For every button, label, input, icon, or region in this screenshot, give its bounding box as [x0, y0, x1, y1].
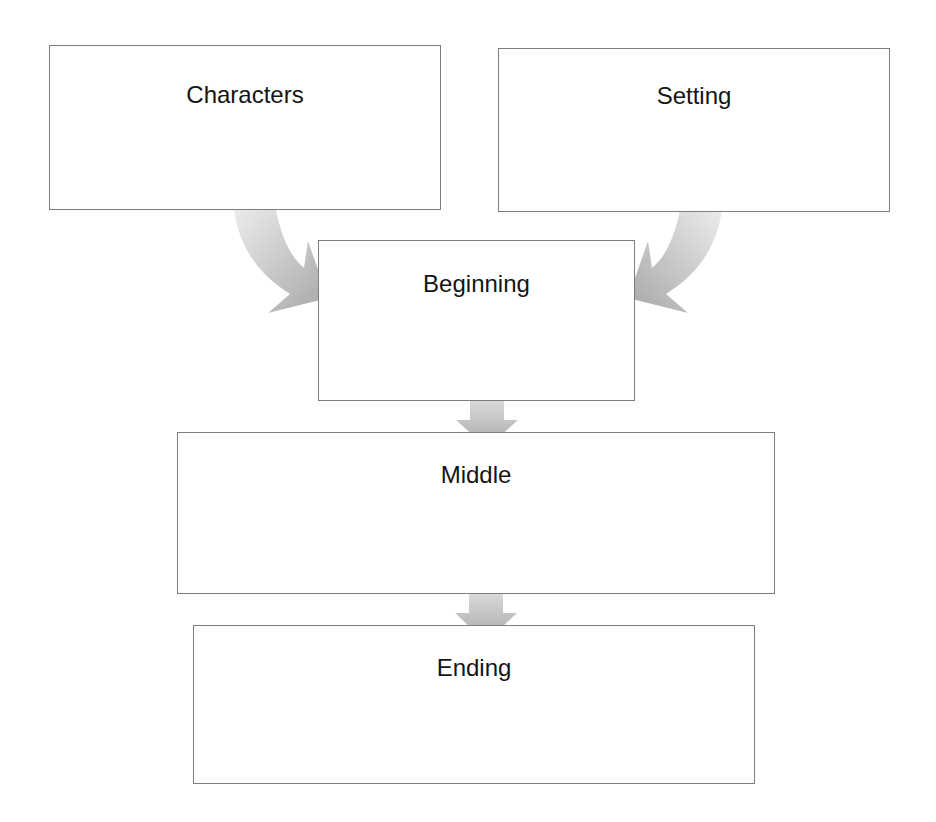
setting-box: Setting — [498, 48, 890, 212]
curved-arrow-left-icon — [234, 210, 328, 313]
setting-label: Setting — [499, 82, 889, 110]
middle-box: Middle — [177, 432, 775, 594]
beginning-box: Beginning — [318, 240, 635, 401]
characters-box: Characters — [49, 45, 441, 210]
beginning-label: Beginning — [319, 270, 634, 298]
characters-label: Characters — [50, 81, 440, 109]
middle-label: Middle — [178, 461, 774, 489]
curved-arrow-right-icon — [628, 210, 722, 313]
ending-box: Ending — [193, 625, 755, 784]
ending-label: Ending — [194, 654, 754, 682]
